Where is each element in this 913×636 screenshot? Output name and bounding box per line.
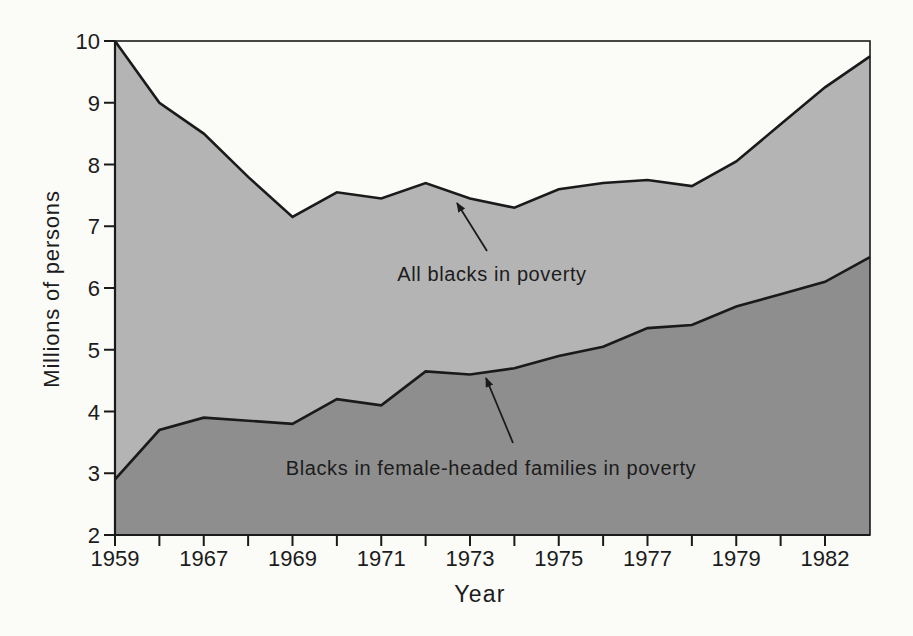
annotation-female-headed: Blacks in female-headed families in pove…	[286, 457, 696, 480]
y-tick-label-7: 7	[88, 214, 100, 239]
y-tick-label-3: 3	[88, 461, 100, 486]
x-tick-label-1977: 1977	[623, 546, 672, 571]
y-tick-label-2: 2	[88, 523, 100, 548]
chart-canvas: 2345678910195919671969197119731975197719…	[0, 0, 913, 636]
x-tick-label-1973: 1973	[446, 546, 495, 571]
x-tick-label-1971: 1971	[357, 546, 406, 571]
annotation-all-blacks: All blacks in poverty	[397, 263, 586, 286]
x-tick-label-1975: 1975	[534, 546, 583, 571]
y-tick-label-8: 8	[88, 153, 100, 178]
y-axis-title: Millions of persons	[39, 190, 65, 387]
x-tick-label-1969: 1969	[268, 546, 317, 571]
x-tick-label-1979: 1979	[712, 546, 761, 571]
poverty-area-chart-figure: 2345678910195919671969197119731975197719…	[0, 0, 913, 636]
y-tick-label-9: 9	[88, 91, 100, 116]
y-tick-label-6: 6	[88, 276, 100, 301]
y-tick-label-5: 5	[88, 338, 100, 363]
y-tick-label-10: 10	[76, 29, 100, 54]
x-tick-label-1982: 1982	[801, 546, 850, 571]
y-tick-label-4: 4	[88, 400, 100, 425]
x-tick-label-1959: 1959	[91, 546, 140, 571]
x-tick-label-1967: 1967	[179, 546, 228, 571]
x-axis-title: Year	[454, 581, 505, 608]
